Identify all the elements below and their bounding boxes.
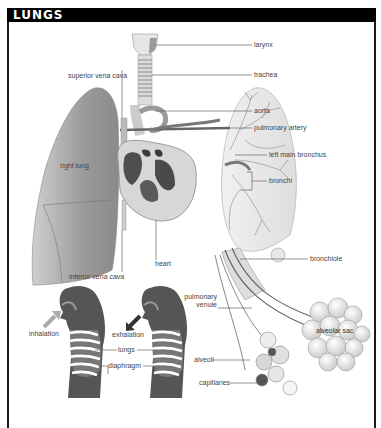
label-larynx: larynx xyxy=(254,41,273,49)
label-bronchi: bronchi xyxy=(269,177,292,185)
label-alveolar-sac: alveolar sac xyxy=(316,327,353,335)
exhalation-figure xyxy=(142,286,187,398)
alveoli xyxy=(256,332,297,395)
label-pulmonary-venule: pulmonary venule xyxy=(184,293,217,309)
label-alveoli: alveoli xyxy=(194,356,214,364)
bronchiole-detail xyxy=(215,248,315,370)
label-left-main-bronchus: left main bronchus xyxy=(269,151,326,159)
label-exhalation: exhalation xyxy=(112,331,144,339)
exhalation-arrow-icon xyxy=(126,316,140,331)
label-inhalation: inhalation xyxy=(29,330,59,338)
inhalation-arrow-icon xyxy=(44,311,61,327)
label-trachea: trachea xyxy=(254,71,277,79)
label-capillaries: capillaries xyxy=(199,379,230,387)
label-pulmonary-venule-line1: pulmonary xyxy=(184,293,217,300)
right-lung xyxy=(32,88,119,285)
label-diaphragm: diaphragm xyxy=(108,362,141,370)
label-right-lung: right lung xyxy=(60,162,89,170)
label-lungs: lungs xyxy=(118,346,135,354)
label-bronchiole: bronchiole xyxy=(310,255,342,263)
label-pulmonary-venule-line2: venule xyxy=(196,301,217,308)
label-pulmonary-artery: pulmonary artery xyxy=(254,124,307,132)
label-heart: heart xyxy=(155,260,171,268)
label-aorta: aorta xyxy=(254,107,270,115)
heart xyxy=(118,105,230,230)
label-superior-vena-cava: superior vena cava xyxy=(68,72,127,80)
inhalation-figure xyxy=(60,286,105,398)
label-inferior-vena-cava: inferior vena cava xyxy=(69,273,124,281)
larynx-trachea xyxy=(132,34,158,105)
